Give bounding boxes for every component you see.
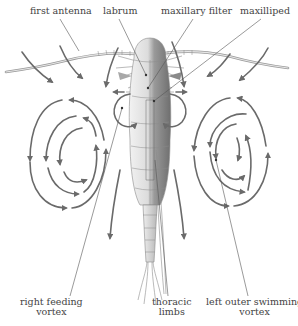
label-line-2: vortex [206, 307, 298, 317]
label-first-antenna: first antenna [30, 6, 92, 16]
copepod-diagram [0, 0, 298, 326]
maxilla-right [168, 72, 182, 80]
label-maxilliped: maxilliped [240, 6, 290, 16]
label-maxillary-filter: maxillary filter [161, 6, 232, 16]
label-line-2: vortex [20, 307, 83, 317]
label-thoracic-limbs: thoracic limbs [152, 297, 192, 317]
right-swimming-vortex [30, 100, 106, 208]
label-right-feeding-vortex: right feeding vortex [20, 297, 83, 317]
maxilla-left [118, 72, 132, 80]
urosome [143, 205, 157, 262]
label-labrum: labrum [103, 6, 137, 16]
label-left-outer-swimming-vortex: left outer swimming vortex [206, 297, 298, 317]
left-outer-swimming-vortex [194, 98, 268, 206]
first-antenna-left [6, 50, 150, 72]
label-line-2: limbs [152, 307, 192, 317]
